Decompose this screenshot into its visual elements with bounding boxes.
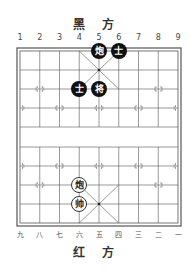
black-advisor-piece[interactable]: 士 [111, 43, 127, 59]
palace-center-marker [98, 203, 101, 206]
column-number: 三 [132, 229, 146, 239]
column-number: 五 [92, 229, 106, 239]
bottom-column-numbers: 九 八 七 六 五 四 三 二 一 [0, 229, 193, 241]
black-cannon-piece[interactable]: 炮 [91, 43, 107, 59]
column-number: 四 [112, 229, 126, 239]
grid-lines [20, 51, 178, 223]
column-number: 一 [171, 229, 185, 239]
black-general-piece[interactable]: 将 [91, 81, 107, 97]
red-side-label: 红 方 [0, 243, 193, 260]
column-number: 九 [13, 229, 27, 239]
palace-center-marker [98, 69, 101, 72]
column-number: 六 [72, 229, 86, 239]
column-number: 二 [151, 229, 165, 239]
column-number: 七 [53, 229, 67, 239]
column-number: 八 [33, 229, 47, 239]
